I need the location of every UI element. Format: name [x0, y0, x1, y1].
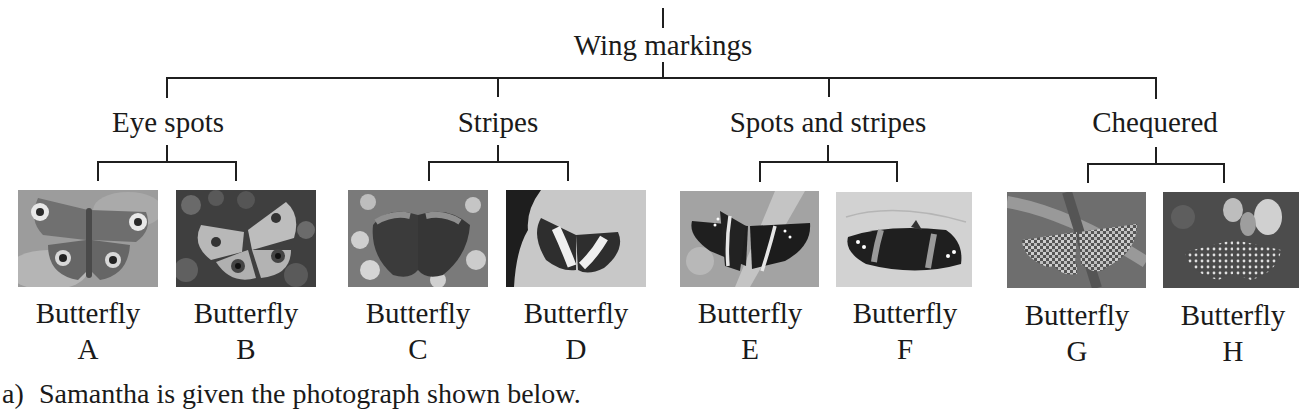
sub-bar-eye-spots	[97, 161, 237, 163]
question-number: a)	[2, 380, 39, 408]
caption-word: Butterfly	[1025, 297, 1130, 333]
caption-butterfly-b: Butterfly B	[194, 295, 299, 367]
caption-letter: B	[194, 331, 299, 367]
butterfly-photo-g	[1007, 192, 1146, 288]
sub-drop-e	[759, 161, 761, 182]
caption-word: Butterfly	[194, 295, 299, 331]
butterfly-photo-c	[348, 190, 488, 287]
butterfly-photo-b	[176, 190, 316, 287]
question-a: a)Samantha is given the photograph shown…	[2, 380, 581, 408]
branch-drop-chequered	[1155, 77, 1157, 99]
sub-drop-f	[896, 161, 898, 182]
caption-letter: D	[524, 331, 629, 367]
caption-butterfly-h: Butterfly H	[1181, 297, 1286, 369]
caption-letter: C	[366, 331, 471, 367]
caption-word: Butterfly	[524, 295, 629, 331]
butterfly-photo-e	[680, 191, 819, 287]
sub-drop-c	[428, 161, 430, 181]
caption-letter: A	[36, 331, 141, 367]
category-label-spots-and-stripes: Spots and stripes	[730, 108, 927, 137]
caption-letter: H	[1181, 333, 1286, 369]
category-label-chequered: Chequered	[1092, 108, 1218, 137]
caption-butterfly-a: Butterfly A	[36, 295, 141, 367]
caption-word: Butterfly	[36, 295, 141, 331]
caption-word: Butterfly	[698, 295, 803, 331]
butterfly-photo-h	[1163, 192, 1299, 288]
sub-drop-d	[567, 161, 569, 181]
butterfly-photo-d	[506, 190, 646, 287]
sub-stem-spots-stripes	[827, 145, 829, 162]
branch-drop-spots-stripes	[828, 77, 830, 97]
branch-drop-stripes	[497, 77, 499, 97]
caption-letter: E	[698, 331, 803, 367]
caption-word: Butterfly	[1181, 297, 1286, 333]
root-label: Wing markings	[574, 31, 752, 60]
caption-word: Butterfly	[853, 295, 958, 331]
category-label-eye-spots: Eye spots	[112, 108, 224, 137]
sub-drop-h	[1223, 163, 1225, 183]
sub-bar-chequered	[1087, 163, 1225, 165]
root-stem-top	[662, 8, 664, 28]
caption-butterfly-e: Butterfly E	[698, 295, 803, 367]
category-label-stripes: Stripes	[458, 108, 539, 137]
sub-bar-spots-stripes	[759, 161, 898, 163]
question-text: Samantha is given the photograph shown b…	[39, 378, 581, 409]
caption-butterfly-f: Butterfly F	[853, 295, 958, 367]
branch-drop-eye-spots	[166, 77, 168, 98]
caption-letter: G	[1025, 333, 1130, 369]
sub-stem-chequered	[1155, 147, 1157, 164]
sub-drop-b	[235, 161, 237, 181]
sub-drop-a	[97, 161, 99, 181]
main-branch-bar	[166, 77, 1157, 79]
sub-bar-stripes	[428, 161, 569, 163]
caption-letter: F	[853, 331, 958, 367]
caption-word: Butterfly	[366, 295, 471, 331]
butterfly-photo-f	[836, 192, 972, 287]
sub-stem-stripes	[497, 145, 499, 162]
caption-butterfly-d: Butterfly D	[524, 295, 629, 367]
caption-butterfly-g: Butterfly G	[1025, 297, 1130, 369]
caption-butterfly-c: Butterfly C	[366, 295, 471, 367]
sub-drop-g	[1087, 163, 1089, 183]
butterfly-photo-a	[18, 190, 158, 287]
sub-stem-eye-spots	[166, 145, 168, 162]
